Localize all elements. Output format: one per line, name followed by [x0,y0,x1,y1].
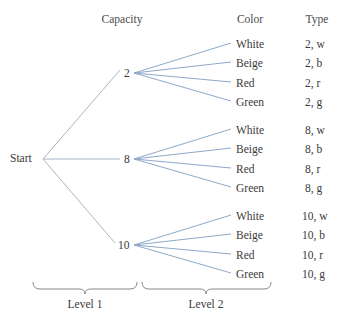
trunk-edge-to-2 [43,70,120,159]
branch-edges-group-8 [134,129,231,187]
outcome-type-6: 8, b [305,144,322,156]
outcome-type-8: 8, g [305,183,322,195]
outcome-type-3: 2, r [305,78,320,90]
edges-layer [0,0,348,321]
trunk-edge-to-10 [43,159,115,243]
branch-edges-group-2 [134,43,231,101]
branch-edge-10-white [134,215,231,245]
branch-edge-8-beige [134,148,231,159]
outcome-type-11: 10, r [302,250,323,262]
node-color-12: Green [236,269,264,281]
bracket-label-level-2: Level 2 [176,299,236,311]
outcome-type-4: 2, g [305,97,322,109]
node-capacity-2: 2 [124,68,130,80]
node-color-7: Red [236,164,255,176]
bracket-label-level-1: Level 1 [55,299,115,311]
node-color-8: Green [236,183,264,195]
outcome-type-2: 2, b [305,58,322,70]
column-header-type: Type [292,14,342,26]
node-color-3: Red [236,78,255,90]
node-color-4: Green [236,97,264,109]
column-header-color: Color [222,14,278,26]
node-color-5: White [236,125,264,137]
node-color-10: Beige [236,230,263,242]
branch-edge-8-white [134,129,231,159]
tree-diagram: Capacity Color Type Start 2 8 10 White B… [0,0,348,321]
bracket-level-1 [33,282,137,294]
outcome-type-12: 10, g [302,269,325,281]
trunk-edges [43,70,120,243]
bracket-level-2 [142,282,271,294]
node-color-1: White [236,39,264,51]
node-color-9: White [236,211,264,223]
outcome-type-9: 10, w [302,211,328,223]
branch-edges-group-10 [134,215,231,273]
node-color-6: Beige [236,144,263,156]
level-brackets [33,282,271,294]
outcome-type-1: 2, w [305,39,325,51]
node-color-2: Beige [236,58,263,70]
column-header-capacity: Capacity [90,14,154,26]
node-capacity-10: 10 [118,240,130,252]
branch-edge-2-beige [134,62,231,73]
node-start: Start [10,153,32,165]
branch-edge-2-white [134,43,231,73]
outcome-type-7: 8, r [305,164,320,176]
node-capacity-8: 8 [124,154,130,166]
branch-edge-10-beige [134,234,231,245]
node-color-11: Red [236,250,255,262]
outcome-type-5: 8, w [305,125,325,137]
outcome-type-10: 10, b [302,230,325,242]
